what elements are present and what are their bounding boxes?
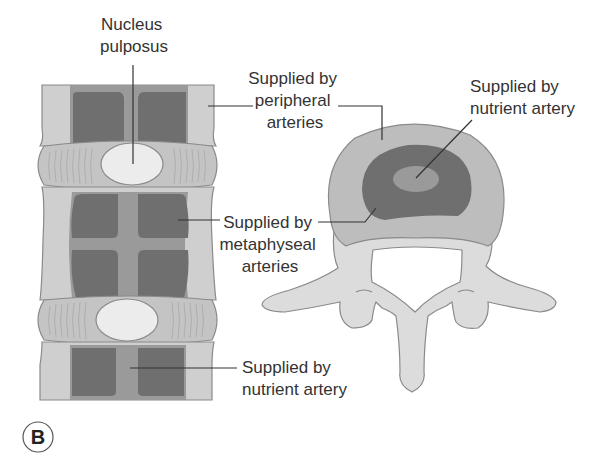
upper-intervertebral-disc xyxy=(38,141,217,191)
lower-vertebral-body xyxy=(40,342,214,400)
label-peripheral-arteries: Supplied by peripheral arteries xyxy=(248,69,342,132)
label-metaphyseal-arteries: Supplied by metaphyseal arteries xyxy=(219,213,320,276)
panel-label: B xyxy=(23,422,53,452)
nutrient-artery-region xyxy=(393,166,439,192)
upper-vertebral-body xyxy=(40,85,216,146)
label-nutrient-artery-bottom: Supplied by nutrient artery xyxy=(242,358,347,399)
middle-vertebral-body xyxy=(40,187,216,300)
vertebral-blood-supply-diagram: Nucleus pulposus Supplied by peripheral … xyxy=(0,0,611,461)
label-nutrient-artery-top: Supplied by nutrient artery xyxy=(470,77,575,118)
lower-intervertebral-disc xyxy=(38,296,217,345)
lower-nucleus-pulposus xyxy=(96,299,158,341)
upper-nucleus-pulposus xyxy=(101,143,163,185)
svg-text:B: B xyxy=(31,426,45,448)
label-nucleus-pulposus: Nucleus pulposus xyxy=(100,15,168,56)
vertebra-axial-section xyxy=(262,124,556,392)
spine-column-sagittal xyxy=(38,85,217,400)
